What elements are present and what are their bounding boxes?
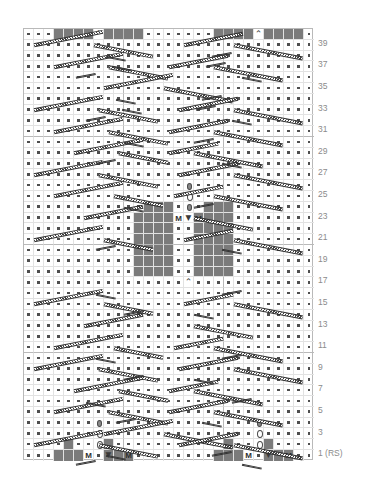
decrease-triangle-symbol[interactable] xyxy=(104,450,114,461)
purl-symbol[interactable] xyxy=(114,61,124,72)
purl-symbol[interactable] xyxy=(264,234,274,245)
chart-cell[interactable] xyxy=(154,202,164,213)
purl-symbol[interactable] xyxy=(34,385,44,396)
purl-symbol[interactable] xyxy=(304,148,314,159)
purl-symbol[interactable] xyxy=(264,126,274,137)
purl-symbol[interactable] xyxy=(284,428,294,439)
purl-symbol[interactable] xyxy=(34,245,44,256)
purl-symbol[interactable] xyxy=(94,267,104,278)
purl-symbol[interactable] xyxy=(194,288,204,299)
purl-symbol[interactable] xyxy=(154,450,164,461)
purl-symbol[interactable] xyxy=(64,234,74,245)
purl-symbol[interactable] xyxy=(244,375,254,386)
purl-symbol[interactable] xyxy=(294,40,304,51)
purl-symbol[interactable] xyxy=(24,439,34,450)
chart-cell[interactable] xyxy=(194,223,204,234)
chart-cell[interactable] xyxy=(204,245,214,256)
purl-symbol[interactable] xyxy=(54,223,64,234)
purl-symbol[interactable] xyxy=(224,353,234,364)
purl-symbol[interactable] xyxy=(94,321,104,332)
purl-symbol[interactable] xyxy=(54,51,64,62)
purl-symbol[interactable] xyxy=(44,61,54,72)
chart-cell[interactable] xyxy=(154,245,164,256)
chart-cell[interactable] xyxy=(134,245,144,256)
purl-symbol[interactable] xyxy=(84,245,94,256)
purl-symbol[interactable] xyxy=(194,148,204,159)
purl-symbol[interactable] xyxy=(34,105,44,116)
purl-symbol[interactable] xyxy=(224,105,234,116)
purl-symbol[interactable] xyxy=(94,234,104,245)
purl-symbol[interactable] xyxy=(244,61,254,72)
purl-symbol[interactable] xyxy=(234,428,244,439)
purl-symbol[interactable] xyxy=(74,396,84,407)
purl-symbol[interactable] xyxy=(84,256,94,267)
purl-symbol[interactable] xyxy=(124,407,134,418)
purl-symbol[interactable] xyxy=(224,191,234,202)
purl-symbol[interactable] xyxy=(64,137,74,148)
purl-symbol[interactable] xyxy=(124,126,134,137)
purl-symbol[interactable] xyxy=(204,342,214,353)
purl-symbol[interactable] xyxy=(194,321,204,332)
purl-symbol[interactable] xyxy=(34,72,44,83)
purl-symbol[interactable] xyxy=(274,169,284,180)
chart-cell[interactable] xyxy=(224,245,234,256)
purl-symbol[interactable] xyxy=(214,385,224,396)
purl-symbol[interactable] xyxy=(154,169,164,180)
chart-cell[interactable] xyxy=(84,29,94,40)
purl-symbol[interactable] xyxy=(44,299,54,310)
purl-symbol[interactable] xyxy=(164,353,174,364)
purl-symbol[interactable] xyxy=(294,277,304,288)
purl-symbol[interactable] xyxy=(44,72,54,83)
purl-symbol[interactable] xyxy=(214,418,224,429)
purl-symbol[interactable] xyxy=(294,353,304,364)
purl-symbol[interactable] xyxy=(214,40,224,51)
purl-symbol[interactable] xyxy=(34,51,44,62)
purl-symbol[interactable] xyxy=(54,299,64,310)
purl-symbol[interactable] xyxy=(284,115,294,126)
purl-symbol[interactable] xyxy=(264,428,274,439)
purl-symbol[interactable] xyxy=(144,342,154,353)
purl-symbol[interactable] xyxy=(204,105,214,116)
purl-symbol[interactable] xyxy=(74,364,84,375)
purl-symbol[interactable] xyxy=(174,256,184,267)
purl-symbol[interactable] xyxy=(224,169,234,180)
purl-symbol[interactable] xyxy=(204,83,214,94)
purl-symbol[interactable] xyxy=(74,277,84,288)
purl-symbol[interactable] xyxy=(274,180,284,191)
chart-cell[interactable] xyxy=(74,450,84,461)
purl-symbol[interactable] xyxy=(44,439,54,450)
purl-symbol[interactable] xyxy=(284,407,294,418)
purl-symbol[interactable] xyxy=(84,234,94,245)
purl-symbol[interactable] xyxy=(54,277,64,288)
purl-symbol[interactable] xyxy=(64,51,74,62)
purl-symbol[interactable] xyxy=(244,418,254,429)
purl-symbol[interactable] xyxy=(124,94,134,105)
chart-cell[interactable] xyxy=(164,213,174,224)
purl-symbol[interactable] xyxy=(244,105,254,116)
purl-symbol[interactable] xyxy=(164,396,174,407)
purl-symbol[interactable] xyxy=(214,342,224,353)
chart-cell[interactable] xyxy=(134,223,144,234)
purl-symbol[interactable] xyxy=(274,61,284,72)
purl-symbol[interactable] xyxy=(184,169,194,180)
purl-symbol[interactable] xyxy=(184,234,194,245)
purl-symbol[interactable] xyxy=(164,137,174,148)
purl-symbol[interactable] xyxy=(54,83,64,94)
purl-symbol[interactable] xyxy=(214,353,224,364)
purl-symbol[interactable] xyxy=(64,396,74,407)
purl-symbol[interactable] xyxy=(34,418,44,429)
purl-symbol[interactable] xyxy=(74,61,84,72)
purl-symbol[interactable] xyxy=(304,105,314,116)
purl-symbol[interactable] xyxy=(94,450,104,461)
purl-symbol[interactable] xyxy=(164,321,174,332)
purl-symbol[interactable] xyxy=(74,159,84,170)
purl-symbol[interactable] xyxy=(224,83,234,94)
purl-symbol[interactable] xyxy=(264,115,274,126)
purl-symbol[interactable] xyxy=(244,321,254,332)
purl-symbol[interactable] xyxy=(24,61,34,72)
purl-symbol[interactable] xyxy=(104,375,114,386)
purl-symbol[interactable] xyxy=(34,439,44,450)
purl-symbol[interactable] xyxy=(164,375,174,386)
purl-symbol[interactable] xyxy=(254,364,264,375)
purl-symbol[interactable] xyxy=(224,418,234,429)
